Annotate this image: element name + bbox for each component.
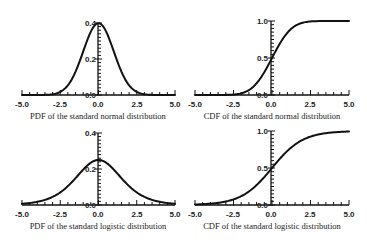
y-tick-label: 1.0 (257, 17, 269, 26)
x-tick-label: -2.5 (226, 210, 240, 219)
x-tick-label: 5.0 (169, 100, 181, 109)
x-tick-label: -2.5 (226, 100, 240, 109)
panel-caption: CDF of the standard logistic distributio… (203, 221, 341, 231)
x-tick-label: -2.5 (53, 100, 67, 109)
x-tick-label: 2.5 (304, 210, 316, 219)
panel-normal-cdf: -5.0 -2.5 0.0 2.5 5.0 0.0 0.5 1.0 CDF of… (188, 17, 355, 121)
distribution-figure: -5.0 -2.5 0.0 2.5 5.0 0.0 0.2 0.4 PDF of… (0, 0, 367, 243)
y-tick-label: 0.4 (85, 129, 97, 138)
x-tick-label: 5.0 (343, 100, 355, 109)
x-tick-label: -5.0 (188, 100, 202, 109)
y-tick-label: 0.0 (257, 201, 269, 210)
panel-caption: PDF of the standard normal distribution (30, 111, 167, 121)
y-axis (95, 23, 102, 95)
y-tick-label: 1.0 (257, 127, 269, 136)
x-tick-label: 2.5 (131, 210, 143, 219)
x-tick-label: -5.0 (15, 210, 29, 219)
x-tick-label: 0.0 (265, 210, 277, 219)
x-tick-label: -5.0 (188, 210, 202, 219)
y-tick-label: 0.0 (85, 91, 97, 100)
y-tick-label: 0.0 (85, 201, 97, 210)
panel-normal-pdf: -5.0 -2.5 0.0 2.5 5.0 0.0 0.2 0.4 PDF of… (15, 19, 181, 121)
panel-caption: CDF of the standard normal distribution (204, 111, 341, 121)
y-tick-label: 0.2 (85, 55, 97, 64)
x-tick-label: 5.0 (169, 210, 181, 219)
y-tick-label: 0.5 (257, 54, 269, 63)
x-tick-label: -2.5 (53, 210, 67, 219)
y-axis (95, 133, 102, 205)
x-tick-label: 0.0 (92, 210, 104, 219)
x-tick-label: 2.5 (304, 100, 316, 109)
y-tick-label: 0.0 (257, 91, 269, 100)
panel-caption: PDF of the standard logistic distributio… (30, 221, 167, 231)
x-tick-label: 5.0 (343, 210, 355, 219)
panel-logistic-pdf: -5.0 -2.5 0.0 2.5 5.0 0.0 0.2 0.4 PDF of… (15, 129, 181, 231)
x-tick-label: -5.0 (15, 100, 29, 109)
x-tick-label: 0.0 (265, 100, 277, 109)
panel-logistic-cdf: -5.0 -2.5 0.0 2.5 5.0 0.0 0.5 1.0 CDF of… (188, 127, 355, 231)
x-tick-label: 0.0 (92, 100, 104, 109)
y-tick-label: 0.5 (257, 164, 269, 173)
x-tick-label: 2.5 (131, 100, 143, 109)
